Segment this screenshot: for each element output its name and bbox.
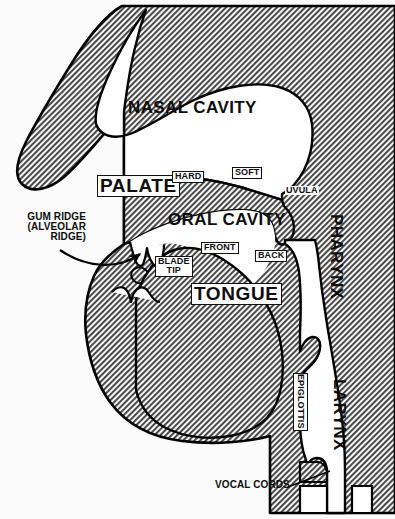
trachea-gap [300, 486, 327, 513]
label-oral-cavity: ORAL CAVITY [168, 211, 286, 228]
label-tongue-front: FRONT [201, 242, 239, 254]
label-epiglottis: EPIGLOTTIS [293, 373, 308, 431]
label-blade-tip: BLADE TIP [155, 256, 193, 277]
label-gum-ridge: GUM RIDGE (ALVEOLAR RIDGE) [2, 212, 86, 243]
vocal-folds [300, 462, 327, 482]
label-palate: PALATE [97, 175, 180, 197]
label-tongue: TONGUE [191, 283, 282, 305]
label-uvula: UVULA [285, 186, 319, 195]
label-larynx: LARYNX [331, 379, 348, 451]
label-soft-palate: SOFT [232, 167, 262, 179]
vocal-tract-diagram: NASAL CAVITY PALATE HARD SOFT UVULA ORAL… [0, 0, 395, 519]
label-tongue-back: BACK [255, 250, 287, 262]
label-vocal-cords: VOCAL CORDS [215, 480, 290, 490]
label-nasal-cavity: NASAL CAVITY [128, 99, 257, 116]
label-pharynx: PHARYNX [328, 214, 345, 299]
label-hard-palate: HARD [172, 171, 204, 183]
esophagus-gap [352, 486, 372, 513]
